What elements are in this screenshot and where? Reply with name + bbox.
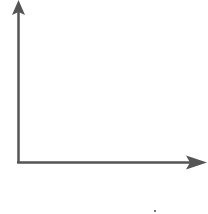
- stray-mark: [154, 210, 156, 212]
- coordinate-axes: [0, 0, 208, 214]
- x-axis: [17, 156, 207, 170]
- y-axis: [12, 0, 25, 163]
